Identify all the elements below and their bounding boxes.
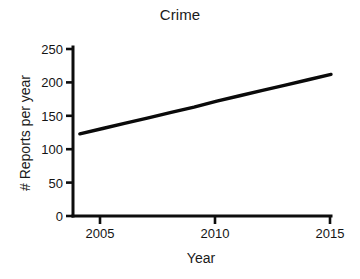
y-tick-label: 200	[41, 75, 63, 90]
x-axis-tick-labels: 2005 2010 2015	[86, 226, 345, 241]
x-tick-label: 2015	[316, 226, 345, 241]
x-axis-label: Year	[72, 250, 330, 266]
y-tick-label: 150	[41, 109, 63, 124]
data-series-line	[80, 74, 331, 133]
y-tick-label: 0	[56, 209, 63, 224]
x-tick-label: 2005	[86, 226, 115, 241]
y-tick-label: 100	[41, 142, 63, 157]
chart-plot-area: 0 50 100 150 200 250 2005 2010 2015	[0, 0, 360, 279]
y-axis-tick-labels: 0 50 100 150 200 250	[41, 42, 63, 224]
chart-figure: Crime 0 50 100 150 200 250	[0, 0, 360, 279]
y-tick-label: 50	[49, 176, 63, 191]
y-axis-label: # Reports per year	[17, 43, 33, 223]
y-tick-label: 250	[41, 42, 63, 57]
x-tick-label: 2010	[201, 226, 230, 241]
